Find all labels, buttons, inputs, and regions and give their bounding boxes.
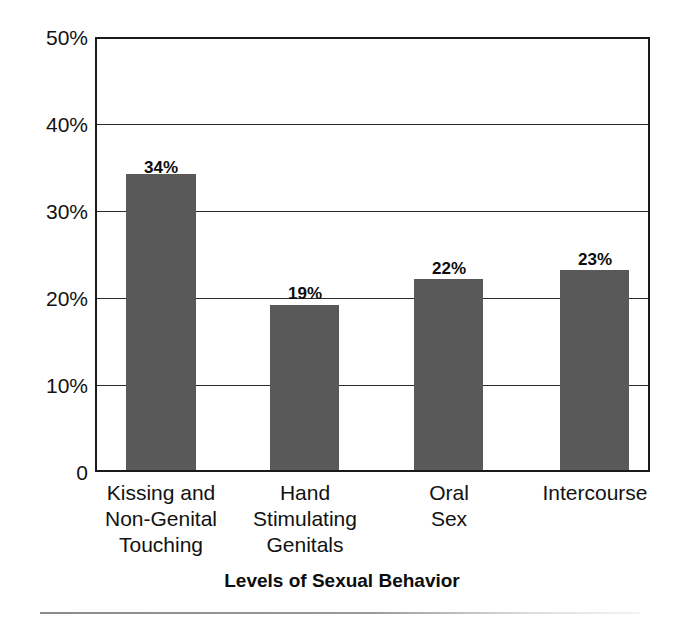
- x-axis-title: Levels of Sexual Behavior: [0, 570, 684, 592]
- bar-value-label-oral: 22%: [389, 260, 509, 277]
- bar-oral-sex[interactable]: [414, 279, 483, 470]
- bar-chart-figure: 50% 40% 30% 20% 10% 0 34% 19% 22% 23% Ki…: [0, 0, 684, 622]
- bar-value-label-kissing: 34%: [101, 159, 221, 176]
- y-tick-label-40: 40%: [4, 114, 88, 135]
- y-tick-label-50: 50%: [4, 27, 88, 48]
- bottom-divider-rule: [40, 612, 640, 614]
- x-category-label-intercourse: Intercourse: [505, 480, 684, 506]
- bar-value-label-intercourse: 23%: [535, 251, 655, 268]
- gridline-40: [97, 124, 648, 125]
- y-tick-label-10: 10%: [4, 375, 88, 396]
- category-line-1: Intercourse: [505, 480, 684, 506]
- bar-value-label-hand: 19%: [245, 285, 365, 302]
- bar-hand-stimulating-genitals[interactable]: [270, 305, 339, 470]
- bar-kissing-and-non-genital-touching[interactable]: [126, 174, 196, 470]
- category-line-3: Genitals: [215, 532, 395, 558]
- bar-intercourse[interactable]: [560, 270, 629, 470]
- y-tick-label-30: 30%: [4, 201, 88, 222]
- y-tick-label-20: 20%: [4, 288, 88, 309]
- category-line-2: Sex: [359, 506, 539, 532]
